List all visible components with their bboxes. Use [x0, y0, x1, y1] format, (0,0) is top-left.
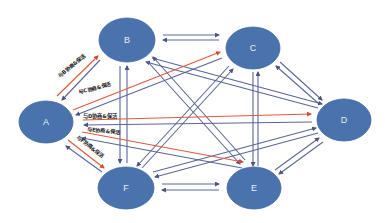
blue-link-arrow — [82, 138, 242, 168]
edge-label: 与B协商&保活 — [56, 51, 88, 79]
network-diagram: ABCDEF 与B协商&保活与C协商&保活与D协商&保活与E协商&保活与F协商&… — [0, 0, 385, 223]
blue-link-arrow — [155, 133, 318, 177]
red-link-arrow-a-to-c — [73, 52, 220, 110]
node-label: B — [124, 35, 130, 45]
edge-label: 与E协商&保活 — [87, 125, 122, 137]
node-label: E — [251, 183, 257, 193]
node-d[interactable]: D — [317, 99, 371, 141]
node-e[interactable]: E — [227, 167, 281, 209]
blue-link-arrow — [84, 122, 312, 125]
blue-link-arrow — [148, 62, 240, 164]
node-label: A — [43, 117, 49, 127]
node-c[interactable]: C — [226, 27, 280, 69]
node-b[interactable]: B — [99, 18, 155, 62]
node-a[interactable]: A — [19, 101, 73, 143]
edge-label: 与D协商&保活 — [83, 112, 118, 120]
node-label: C — [250, 43, 257, 53]
blue-link-arrow — [146, 62, 318, 108]
node-f[interactable]: F — [98, 167, 154, 209]
red-link-arrow-a-to-d — [83, 114, 311, 120]
red-link-arrow-a-to-e — [82, 132, 243, 162]
node-label: D — [341, 115, 348, 125]
edge-label: 与F协商&保活 — [75, 133, 107, 160]
blue-link-arrow — [279, 142, 323, 174]
node-label: F — [123, 183, 129, 193]
edge-label: 与C协商&保活 — [78, 80, 113, 96]
edge-label-group: 与B协商&保活与C协商&保活与D协商&保活与E协商&保活与F协商&保活 — [56, 51, 121, 160]
